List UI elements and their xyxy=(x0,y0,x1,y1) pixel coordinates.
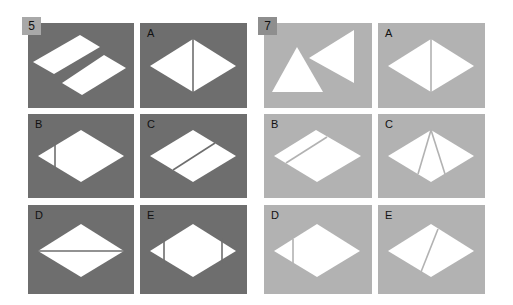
puzzle-5-option-d[interactable]: D xyxy=(28,205,134,294)
puzzle-5-option-b[interactable]: B xyxy=(28,114,134,198)
rhombus-figure xyxy=(378,114,485,198)
rhombus-figure xyxy=(378,23,485,108)
rhombus-figure xyxy=(140,205,247,294)
puzzle-7-option-b[interactable]: B xyxy=(264,114,372,198)
puzzle-5-question-panel xyxy=(28,23,134,108)
puzzle-7-option-e[interactable]: E xyxy=(378,205,485,294)
puzzle-5-option-c[interactable]: C xyxy=(140,114,247,198)
rhombus-figure xyxy=(28,205,134,294)
puzzle-5-option-e[interactable]: E xyxy=(140,205,247,294)
puzzle-5-option-a[interactable]: A xyxy=(140,23,247,108)
rhombus-figure xyxy=(140,114,247,198)
puzzle-7-option-a[interactable]: A xyxy=(378,23,485,108)
puzzle-7-number-badge: 7 xyxy=(258,17,277,35)
puzzle-7-option-c[interactable]: C xyxy=(378,114,485,198)
parallelogram-strips-figure xyxy=(28,23,134,108)
rhombus-figure xyxy=(140,23,247,108)
rhombus-figure xyxy=(378,205,485,294)
puzzle-5-number-badge: 5 xyxy=(22,17,41,35)
puzzle-7-question-panel xyxy=(264,23,372,108)
rhombus-figure xyxy=(264,114,372,198)
rhombus-figure xyxy=(28,114,134,198)
two-triangles-figure xyxy=(264,23,372,108)
puzzle-7-option-d[interactable]: D xyxy=(264,205,372,294)
rhombus-figure xyxy=(264,205,372,294)
